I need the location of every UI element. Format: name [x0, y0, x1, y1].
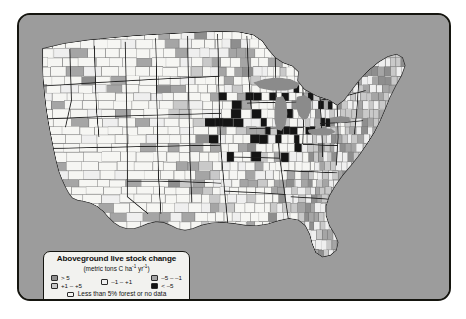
legend-title: Aboveground live stock change	[57, 255, 176, 263]
legend-column-middle: –1 – +1	[101, 275, 132, 289]
figure-root: Aboveground live stock change (metric to…	[0, 0, 466, 319]
legend-class-list: > 5 +1 – +5 –1 – +1 –	[49, 275, 184, 289]
legend-swatch-gt5	[51, 275, 58, 281]
legend-item-m1p1: –1 – +1	[101, 279, 132, 285]
legend-label-ltm5: < –5	[161, 283, 173, 289]
legend-label-m5m1: –5 – –1	[161, 275, 182, 281]
legend-label-p1p5: +1 – +5	[61, 283, 82, 289]
legend-swatch-ltm5	[151, 283, 158, 289]
legend-item-gt5: > 5	[51, 275, 82, 281]
map-frame: Aboveground live stock change (metric to…	[17, 13, 451, 301]
map-legend: Aboveground live stock change (metric to…	[43, 251, 190, 301]
legend-swatch-m5m1	[151, 275, 158, 281]
legend-subtitle-prefix: (metric tons C ha	[83, 266, 132, 273]
legend-item-nodata: Less than 5% forest or no data	[67, 291, 167, 298]
legend-label-nodata: Less than 5% forest or no data	[78, 291, 167, 298]
legend-label-m1p1: –1 – +1	[111, 279, 132, 285]
legend-column-right: –5 – –1 < –5	[151, 275, 182, 289]
legend-column-left: > 5 +1 – +5	[51, 275, 82, 289]
legend-swatch-m1p1	[101, 279, 108, 285]
legend-swatch-p1p5	[51, 283, 58, 289]
legend-label-gt5: > 5	[61, 275, 70, 281]
legend-subtitle: (metric tons C ha-1 yr-1)	[83, 264, 149, 272]
legend-swatch-nodata	[67, 292, 74, 298]
legend-subtitle-suffix: )	[147, 266, 149, 273]
legend-item-ltm5: < –5	[151, 283, 182, 289]
legend-item-m5m1: –5 – –1	[151, 275, 182, 281]
legend-item-p1p5: +1 – +5	[51, 283, 82, 289]
